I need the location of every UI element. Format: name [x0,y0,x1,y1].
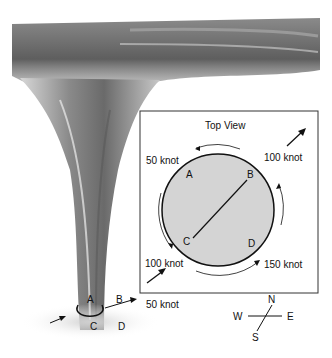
speed-sw-label: 100 knot [145,259,183,269]
compass-n: N [268,295,275,305]
ground-point-b-label: B [116,295,123,305]
speed-nw-label: 50 knot [146,156,179,166]
ground-speed-label: 50 knot [146,300,179,310]
point-c-label: C [183,237,190,247]
top-view-title: Top View [205,121,245,131]
point-d-label: D [248,239,255,249]
compass-w: W [233,312,242,322]
vortex-disc [162,154,274,266]
compass-e: E [287,312,294,322]
speed-ne-label: 100 knot [264,153,302,163]
tornado-diagram: Top View A B C D 50 knot 100 knot 100 kn… [0,0,332,358]
ground-point-a-label: A [87,295,94,305]
speed-se-label: 150 knot [264,260,302,270]
point-b-label: B [247,170,254,180]
ground-point-d-label: D [118,322,125,332]
ground-point-c-label: C [90,322,97,332]
compass-s: S [252,333,259,343]
point-a-label: A [186,170,193,180]
